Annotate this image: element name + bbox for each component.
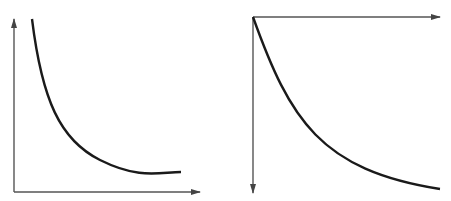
left-panel <box>14 19 200 192</box>
right-panel <box>253 17 440 193</box>
figure <box>0 0 451 201</box>
right-decay-curve <box>253 17 440 189</box>
left-decay-curve <box>32 19 181 174</box>
